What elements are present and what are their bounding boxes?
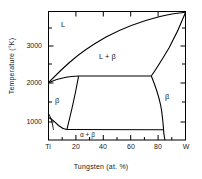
xtick-label-80: 80: [146, 143, 170, 150]
y-axis-title: Temperature (°K): [8, 16, 15, 116]
x-axis-title: Tungsten (at. %): [0, 163, 202, 170]
phase-diagram-plot: [0, 0, 202, 179]
xtick-label-60: 60: [119, 143, 143, 150]
region-label-liquid: L: [61, 20, 65, 29]
region-label-beta-left: β: [55, 96, 59, 105]
xtick-label-20: 20: [64, 143, 88, 150]
region-label-liquid-beta: L + β: [99, 52, 116, 61]
xtick-label-w: W: [174, 143, 198, 150]
region-label-beta-right: β: [165, 92, 169, 101]
ytick-label-1000: 1000: [12, 118, 42, 125]
xtick-label-ti: Ti: [36, 143, 60, 150]
region-label-alpha-beta: α + β: [80, 131, 95, 138]
y-axis-title-wrapper: Temperature (°K): [8, 16, 20, 116]
phase-diagram-figure: 1000 2000 3000 Ti 20 40 60 80 W Tungsten…: [0, 0, 202, 179]
xtick-label-40: 40: [91, 143, 115, 150]
